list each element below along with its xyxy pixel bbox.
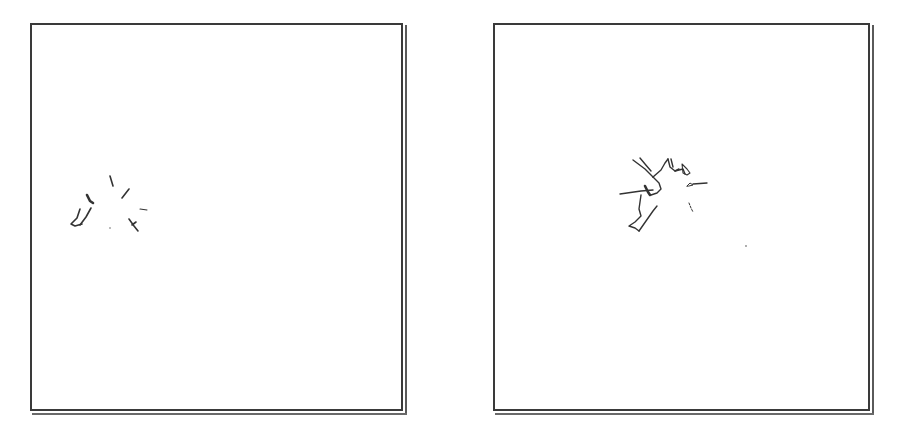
panel-frame-shadow-right xyxy=(872,25,874,415)
right-sketch-strokes xyxy=(493,23,870,411)
left-sketch-strokes xyxy=(30,23,403,411)
right-drawing-panel xyxy=(493,23,870,411)
panel-frame-shadow-right xyxy=(405,25,407,415)
left-drawing-panel xyxy=(30,23,403,411)
panel-frame-shadow-bottom xyxy=(32,413,407,415)
panel-frame-shadow-bottom xyxy=(495,413,874,415)
